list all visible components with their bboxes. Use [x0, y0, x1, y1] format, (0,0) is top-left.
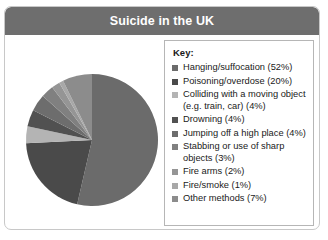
legend-item: Other methods (7%)	[172, 193, 307, 205]
legend-title: Key:	[173, 47, 307, 59]
legend-swatch-icon	[172, 79, 178, 85]
legend-swatch-icon	[172, 169, 178, 175]
legend-item: Hanging/suffocation (52%)	[172, 62, 307, 74]
page-title: Suicide in the UK	[110, 14, 215, 28]
legend-item-label: Other methods (7%)	[183, 193, 267, 205]
chart-card: Suicide in the UK Key: Hanging/suffocati…	[4, 6, 320, 230]
legend-swatch-icon	[172, 144, 178, 150]
legend-item: Colliding with a moving object (e.g. tra…	[172, 89, 307, 112]
legend-item-label: Stabbing or use of sharp objects (3%)	[183, 141, 284, 164]
legend-item-label: Fire/smoke (1%)	[183, 180, 251, 192]
legend-item: Poisoning/overdose (20%)	[172, 76, 307, 88]
legend-item-label: Jumping off a high place (4%)	[183, 128, 306, 140]
legend-swatch-icon	[172, 65, 178, 71]
pie-chart	[7, 37, 163, 227]
legend-item-label: Fire arms (2%)	[183, 166, 244, 178]
legend-item-label: Colliding with a moving object (e.g. tra…	[183, 89, 305, 112]
pie-chart-area	[7, 37, 163, 227]
legend-swatch-icon	[172, 117, 178, 123]
legend-item: Jumping off a high place (4%)	[172, 128, 307, 140]
legend-swatch-icon	[172, 196, 178, 202]
legend-item: Fire arms (2%)	[172, 166, 307, 178]
legend: Key: Hanging/suffocation (52%)Poisoning/…	[164, 40, 314, 226]
legend-swatch-icon	[172, 183, 178, 189]
legend-item: Fire/smoke (1%)	[172, 180, 307, 192]
legend-swatch-icon	[172, 92, 178, 98]
legend-item: Drowning (4%)	[172, 114, 307, 126]
legend-item-label: Poisoning/overdose (20%)	[183, 76, 292, 88]
legend-item-label: Hanging/suffocation (52%)	[183, 62, 292, 74]
legend-item-label: Drowning (4%)	[183, 114, 244, 126]
legend-rows: Hanging/suffocation (52%)Poisoning/overd…	[172, 62, 307, 205]
title-bar: Suicide in the UK	[5, 7, 319, 35]
legend-swatch-icon	[172, 131, 178, 137]
legend-item: Stabbing or use of sharp objects (3%)	[172, 141, 307, 164]
